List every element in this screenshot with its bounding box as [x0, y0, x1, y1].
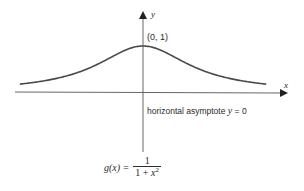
asymptote-eq: = 0	[232, 106, 246, 116]
formula-den-prefix: 1 +	[135, 167, 151, 178]
x-axis-arrow-icon	[280, 89, 288, 97]
formula-numerator: 1	[143, 155, 152, 166]
formula-lhs: g(x) =	[104, 162, 129, 173]
peak-point-label: (0, 1)	[147, 32, 168, 42]
y-axis-label: y	[151, 9, 155, 19]
formula-denominator: 1 + x2	[133, 166, 161, 179]
formula-den-exp: 2	[155, 166, 159, 174]
x-axis-label: x	[284, 80, 288, 90]
y-axis-arrow-icon	[139, 11, 147, 19]
x-axis	[15, 92, 282, 93]
formula-fraction: 1 1 + x2	[133, 155, 161, 179]
function-formula: g(x) = 1 1 + x2	[104, 155, 161, 179]
asymptote-label: horizontal asymptote y = 0	[147, 105, 247, 116]
asymptote-text: horizontal asymptote	[147, 106, 228, 116]
